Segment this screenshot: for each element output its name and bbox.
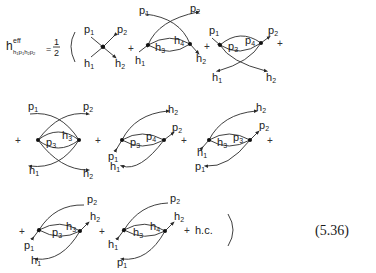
svg-text:+: + xyxy=(19,226,25,237)
equals-sign: = xyxy=(46,44,51,54)
svg-text:+: + xyxy=(184,225,190,236)
svg-text:h1: h1 xyxy=(135,54,145,67)
svg-text:p2: p2 xyxy=(259,119,269,132)
feynman-diagram-equation: h eff h1p1h2p2 = 1 2 p1 p2 h1 h2 + p1 p2… xyxy=(0,0,376,273)
diagram-4: p1 p2 p3 h3 h1 h2 xyxy=(28,100,93,180)
svg-text:h1: h1 xyxy=(110,160,120,173)
lhs-superscript: eff xyxy=(13,37,21,44)
lhs-subscript: h1p1h2p2 xyxy=(13,49,36,56)
svg-text:h2: h2 xyxy=(266,71,276,84)
svg-text:h1: h1 xyxy=(197,146,207,159)
diagram-6: h2 p2 h3 p3 h1 p1 xyxy=(195,101,269,173)
svg-text:p2: p2 xyxy=(170,192,180,205)
svg-text:p3: p3 xyxy=(233,131,243,144)
svg-text:+: + xyxy=(99,226,105,237)
svg-text:p1: p1 xyxy=(28,100,38,113)
svg-text:h2: h2 xyxy=(256,101,266,114)
svg-text:p4: p4 xyxy=(146,130,156,143)
svg-text:p1: p1 xyxy=(195,160,205,173)
close-paren xyxy=(228,214,233,246)
equation-lhs: h eff h1p1h2p2 = 1 2 xyxy=(6,32,75,62)
label-p1: p1 xyxy=(84,23,94,36)
svg-text:h4: h4 xyxy=(150,220,160,233)
svg-text:+: + xyxy=(15,135,21,146)
vertex-dot xyxy=(101,45,105,49)
svg-text:p2: p2 xyxy=(268,24,278,37)
svg-text:p1: p1 xyxy=(139,4,149,17)
label-h1: h1 xyxy=(84,57,94,70)
svg-text:p3: p3 xyxy=(46,136,56,149)
svg-text:h1: h1 xyxy=(29,164,39,177)
svg-text:p1: p1 xyxy=(209,24,219,37)
svg-text:p1: p1 xyxy=(117,256,127,269)
svg-text:h4: h4 xyxy=(174,34,184,47)
svg-text:p2: p2 xyxy=(172,121,182,134)
svg-text:p2: p2 xyxy=(83,100,93,113)
svg-text:h3: h3 xyxy=(217,136,227,149)
equation-number: (5.36) xyxy=(315,223,349,239)
diagram-2: p1 p2 h3 h4 h1 h2 xyxy=(135,2,206,67)
svg-text:h3: h3 xyxy=(155,41,165,54)
svg-text:h2: h2 xyxy=(196,52,206,65)
label-h2: h2 xyxy=(115,57,125,70)
svg-text:p1: p1 xyxy=(24,239,34,252)
svg-text:+: + xyxy=(277,38,283,49)
svg-text:p2: p2 xyxy=(190,2,200,15)
svg-text:h3: h3 xyxy=(66,220,76,233)
svg-text:h1: h1 xyxy=(108,238,118,251)
svg-text:+: + xyxy=(95,135,101,146)
svg-text:h1: h1 xyxy=(31,254,41,267)
diagram-5: h2 p2 p3 p4 p1 h1 xyxy=(108,103,182,173)
svg-text:+: + xyxy=(204,41,210,52)
svg-text:+: + xyxy=(267,135,273,146)
svg-text:p3: p3 xyxy=(130,136,140,149)
prefactor-denominator: 2 xyxy=(54,48,59,58)
diagram-1: p1 p2 h1 h2 xyxy=(84,23,127,70)
svg-text:+: + xyxy=(181,135,187,146)
diagram-8: p2 h2 h3 h4 h1 p1 xyxy=(108,192,184,269)
svg-text:h3: h3 xyxy=(133,226,143,239)
svg-text:h1: h1 xyxy=(212,71,222,84)
diagram-3: p1 p2 p3 p4 h1 h2 xyxy=(209,24,278,84)
prefactor-numerator: 1 xyxy=(54,37,59,47)
svg-text:h2: h2 xyxy=(168,103,178,116)
svg-text:h3: h3 xyxy=(62,129,72,142)
svg-text:h2: h2 xyxy=(174,210,184,223)
label-p2: p2 xyxy=(117,23,127,36)
hermitian-conjugate: h.c. xyxy=(195,224,213,236)
diagram-7: p2 h2 p3 h3 p1 h1 xyxy=(24,193,100,267)
open-paren xyxy=(71,32,75,62)
svg-text:h2: h2 xyxy=(83,167,93,180)
plus-sign: + xyxy=(128,43,134,54)
svg-text:h2: h2 xyxy=(90,210,100,223)
lhs-symbol: h xyxy=(6,39,13,53)
svg-text:p3: p3 xyxy=(228,40,238,53)
svg-text:p3: p3 xyxy=(52,226,62,239)
svg-text:p4: p4 xyxy=(245,34,255,47)
svg-text:p2: p2 xyxy=(87,193,97,206)
